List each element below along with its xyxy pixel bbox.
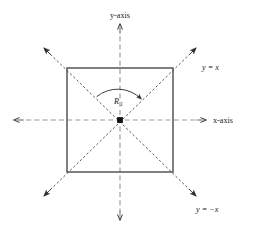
- center-point: [117, 117, 123, 123]
- x-axis-label: x-axis: [213, 116, 233, 125]
- geometry-figure: y-axis x-axis y = x y = −x R 1: [0, 0, 255, 237]
- rotation-label-subscript: 1: [120, 101, 123, 107]
- rotation-symmetry-diagram: y-axis x-axis y = x y = −x R 1: [0, 0, 255, 237]
- y-axis-label: y-axis: [110, 11, 130, 20]
- line-label-y-equals-x: y = x: [201, 63, 219, 72]
- line-label-y-equals-negative-x: y = −x: [195, 205, 219, 214]
- rotation-label-symbol: R: [113, 97, 119, 106]
